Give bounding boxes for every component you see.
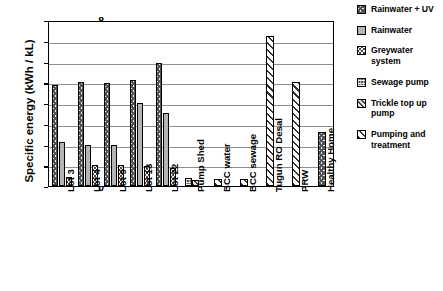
- legend-swatch-icon: [357, 46, 366, 55]
- bar-group: [153, 22, 179, 186]
- legend-item: Greywater system: [357, 45, 443, 66]
- plot-area: [48, 21, 334, 187]
- bars-layer: [49, 22, 333, 186]
- x-tick-label: BCC sewage: [247, 134, 258, 192]
- legend-swatch-icon: [357, 5, 366, 14]
- legend-label: Rainwater + UV: [371, 4, 434, 15]
- bar-group: [283, 22, 309, 186]
- x-tick-label: Lot 3: [65, 169, 76, 192]
- bar: [78, 82, 85, 186]
- legend-label: Sewage pump: [371, 77, 429, 88]
- x-tick-label: Tugun RO Desal: [273, 118, 284, 192]
- bar: [156, 63, 163, 186]
- legend-item: Rainwater + UV: [357, 4, 443, 15]
- legend-label: Rainwater: [371, 25, 412, 36]
- legend-label: Greywater system: [371, 45, 443, 66]
- legend-item: Rainwater: [357, 25, 443, 36]
- legend-swatch-icon: [357, 130, 366, 139]
- bar: [104, 83, 111, 186]
- legend-swatch-icon: [357, 26, 366, 35]
- y-axis-title: Specific energy (kWh / kL): [23, 16, 35, 206]
- legend-swatch-icon: [357, 78, 366, 87]
- x-tick-label: Lot 22: [169, 164, 180, 192]
- bar: [185, 178, 192, 186]
- legend-label: Pumping and treatment: [371, 129, 443, 150]
- x-tick-label: Healthy Home: [325, 128, 336, 192]
- bar-chart: Specific energy (kWh / kL) 876543210 Lot…: [0, 0, 443, 291]
- x-tick-label: Lot 4: [91, 169, 102, 192]
- bar: [130, 80, 137, 186]
- bar: [52, 85, 59, 186]
- legend-item: Pumping and treatment: [357, 129, 443, 150]
- bar-group: [101, 22, 127, 186]
- x-tick-label: Lot 9: [117, 169, 128, 192]
- bar-group: [127, 22, 153, 186]
- legend-label: Trickle top up pump: [371, 98, 443, 119]
- bar-group: [49, 22, 75, 186]
- x-tick-label: PRW: [299, 170, 310, 192]
- y-tick-mark: [44, 187, 48, 188]
- x-tick-label: BCC water: [221, 143, 232, 192]
- legend-item: Sewage pump: [357, 77, 443, 88]
- legend-item: Trickle top up pump: [357, 98, 443, 119]
- x-tick-label: Pump Shed: [195, 139, 206, 192]
- chart-legend: Rainwater + UVRainwaterGreywater systemS…: [357, 4, 443, 161]
- bar-group: [75, 22, 101, 186]
- x-tick-label: Lot 13: [143, 164, 154, 192]
- legend-swatch-icon: [357, 99, 366, 108]
